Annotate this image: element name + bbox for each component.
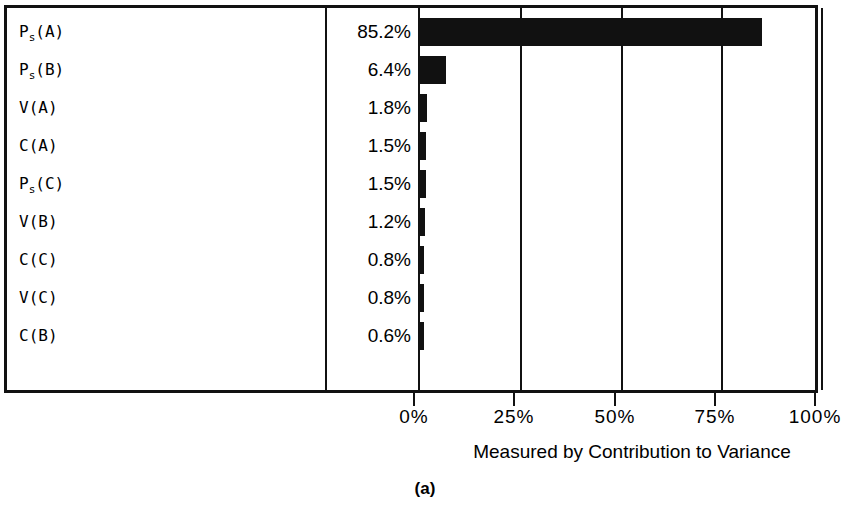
axis-tick [714,393,716,406]
bar [420,284,424,312]
row-label: Ps(A) [19,13,64,51]
row-percent-value: 1.8% [325,89,411,127]
axis-tick [614,393,616,406]
bar [420,18,762,46]
x-axis-tick-labels: 0%25%50%75%100% [0,406,851,432]
axis-tick-label: 25% [493,406,534,428]
row-label: Ps(C) [19,165,64,203]
gridline [721,8,723,390]
gridline [821,8,823,390]
axis-tick-label: 0% [399,406,428,428]
row-percent-value: 1.5% [325,165,411,203]
bar [420,170,426,198]
axis-tick-label: 100% [789,406,842,428]
row-percent-value: 1.2% [325,203,411,241]
row-label: C(C) [19,241,58,279]
axis-tick-label: 50% [594,406,635,428]
bar [420,322,424,350]
bar [420,56,446,84]
row-label: V(C) [19,279,58,317]
axis-tick-label: 75% [694,406,735,428]
row-percent-value: 1.5% [325,127,411,165]
row-label: V(A) [19,89,58,127]
axis-tick [413,393,415,406]
axis-tick [513,393,515,406]
gridline [520,8,522,390]
row-label: C(A) [19,127,58,165]
x-axis-ticks [4,393,818,407]
figure-caption: (a) [380,479,470,499]
row-label: C(B) [19,317,58,355]
plot-area [420,8,815,390]
row-percent-value: 6.4% [325,51,411,89]
gridline [621,8,623,390]
bar [420,94,427,122]
x-axis-title: Measured by Contribution to Variance [413,441,851,463]
axis-tick [814,393,816,406]
chart-frame: Ps(A)85.2%Ps(B)6.4%V(A)1.8%C(A)1.5%Ps(C)… [4,5,818,393]
bar [420,246,424,274]
row-percent-value: 0.8% [325,279,411,317]
row-label: Ps(B) [19,51,64,89]
row-percent-value: 0.8% [325,241,411,279]
bar [420,132,426,160]
row-percent-value: 0.6% [325,317,411,355]
row-label: V(B) [19,203,58,241]
row-percent-value: 85.2% [325,13,411,51]
bar [420,208,425,236]
